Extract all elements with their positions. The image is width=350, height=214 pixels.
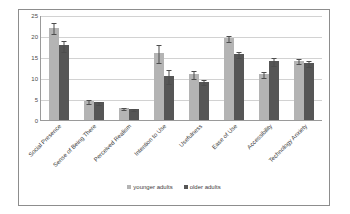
- bar-rect: [49, 28, 59, 120]
- error-bar-cap: [227, 42, 232, 43]
- error-bar-cap: [96, 105, 101, 106]
- grouped-bar-chart: 0510152025 Social PresenceSense of Being…: [19, 10, 329, 205]
- error-bar-cap: [307, 61, 312, 62]
- bar-older[interactable]: [234, 16, 244, 120]
- error-bar-cap: [297, 64, 302, 65]
- error-bar: [309, 61, 310, 68]
- error-bar-cap: [272, 66, 277, 67]
- error-bar: [53, 23, 54, 34]
- error-bar-cap: [227, 36, 232, 37]
- error-bar-cap: [156, 45, 161, 46]
- bar-group: [111, 16, 146, 120]
- bar-older[interactable]: [59, 16, 69, 120]
- legend-swatch-icon: [184, 185, 188, 189]
- error-bar-cap: [51, 23, 56, 24]
- error-bar-cap: [262, 72, 267, 73]
- error-bar-cap: [156, 63, 161, 64]
- y-axis-tick-label: 0: [21, 118, 38, 124]
- legend-entry[interactable]: older adults: [184, 184, 221, 190]
- error-bar-cap: [131, 111, 136, 112]
- bar-rect: [259, 74, 269, 120]
- plot-panel: [40, 16, 322, 121]
- bar-rect: [269, 61, 279, 120]
- legend-label: younger adults: [133, 184, 172, 190]
- bar-rect: [224, 38, 234, 120]
- error-bar-cap: [202, 80, 207, 81]
- error-bar: [168, 70, 169, 84]
- x-axis-label-slot: Intention to Use: [146, 122, 181, 182]
- bars-layer: [41, 16, 322, 120]
- error-bar-cap: [307, 67, 312, 68]
- bar-rect: [304, 63, 314, 120]
- bar-rect: [294, 61, 304, 120]
- bar-younger[interactable]: [154, 16, 164, 120]
- error-bar: [63, 41, 64, 52]
- bar-group: [41, 16, 76, 120]
- bar-older[interactable]: [94, 16, 104, 120]
- bar-rect: [59, 45, 69, 120]
- x-axis-label-slot: Ease of Use: [216, 122, 251, 182]
- y-axis-tick-label: 15: [21, 55, 38, 61]
- error-bar-cap: [192, 71, 197, 72]
- error-bar-cap: [262, 78, 267, 79]
- bar-older[interactable]: [269, 16, 279, 120]
- bar-younger[interactable]: [224, 16, 234, 120]
- x-axis-tick-label: Usefulness: [178, 123, 204, 149]
- y-axis-tick-label: 5: [21, 97, 38, 103]
- error-bar-cap: [61, 52, 66, 53]
- error-bar-cap: [297, 59, 302, 60]
- error-bar-cap: [61, 41, 66, 42]
- bar-younger[interactable]: [119, 16, 129, 120]
- bar-older[interactable]: [164, 16, 174, 120]
- x-axis-tick-label: Social Presence: [27, 123, 63, 159]
- x-axis-labels: Social PresenceSense of Being TherePerce…: [40, 122, 322, 182]
- y-axis-tick-label: 25: [21, 13, 38, 19]
- error-bar: [194, 71, 195, 79]
- bar-group: [182, 16, 217, 120]
- y-axis-tick-label: 20: [21, 34, 38, 40]
- error-bar: [158, 45, 159, 63]
- error-bar-cap: [121, 110, 126, 111]
- bar-older[interactable]: [199, 16, 209, 120]
- bar-rect: [199, 82, 209, 120]
- error-bar-cap: [192, 79, 197, 80]
- bar-group: [252, 16, 287, 120]
- error-bar-cap: [86, 100, 91, 101]
- figure-frame: 0510152025 Social PresenceSense of Being…: [18, 9, 330, 206]
- bar-older[interactable]: [129, 16, 139, 120]
- bar-younger[interactable]: [294, 16, 304, 120]
- bar-rect: [189, 74, 199, 120]
- x-axis-label-slot: Technology Anxiety: [287, 122, 322, 182]
- x-axis-label-slot: Usefulness: [181, 122, 216, 182]
- y-axis: 0510152025: [21, 16, 38, 121]
- error-bar-cap: [131, 109, 136, 110]
- legend-entry[interactable]: younger adults: [127, 184, 172, 190]
- bar-rect: [234, 54, 244, 120]
- legend-swatch-icon: [127, 185, 131, 189]
- error-bar-cap: [166, 70, 171, 71]
- error-bar-cap: [96, 102, 101, 103]
- bar-younger[interactable]: [49, 16, 59, 120]
- y-axis-tick-label: 10: [21, 76, 38, 82]
- bar-group: [287, 16, 322, 120]
- bar-younger[interactable]: [259, 16, 269, 120]
- error-bar-cap: [237, 52, 242, 53]
- error-bar-cap: [51, 34, 56, 35]
- bar-group: [217, 16, 252, 120]
- error-bar-cap: [121, 108, 126, 109]
- error-bar: [274, 58, 275, 66]
- chart-legend: younger adultsolder adults: [19, 184, 329, 190]
- legend-label: older adults: [190, 184, 221, 190]
- bar-younger[interactable]: [189, 16, 199, 120]
- bar-group: [146, 16, 181, 120]
- error-bar-cap: [166, 84, 171, 85]
- error-bar-cap: [202, 85, 207, 86]
- bar-older[interactable]: [304, 16, 314, 120]
- error-bar-cap: [237, 58, 242, 59]
- bar-group: [76, 16, 111, 120]
- error-bar-cap: [86, 104, 91, 105]
- error-bar-cap: [272, 58, 277, 59]
- bar-younger[interactable]: [84, 16, 94, 120]
